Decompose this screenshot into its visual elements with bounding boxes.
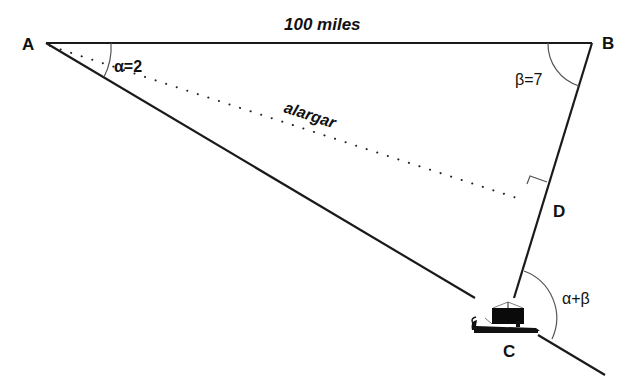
alpha-plus-beta-label: α+β [562, 290, 590, 307]
ship-icon [472, 302, 540, 333]
line-c-extension [538, 335, 605, 375]
line-ac [46, 43, 475, 298]
beta-arc [548, 43, 579, 86]
vertex-b-label: B [602, 34, 614, 53]
triangle-diagram: A B C D 100 miles α=2 β=7 α+β alargar [0, 0, 635, 385]
vertex-c-label: C [503, 342, 515, 361]
vertex-a-label: A [22, 35, 34, 54]
dotted-line-label: alargar [282, 99, 339, 132]
alpha-label: α=2 [114, 58, 142, 75]
vertex-d-label: D [553, 202, 565, 221]
right-angle-mark [527, 176, 547, 184]
alpha-arc [104, 43, 111, 77]
distance-ab-label: 100 miles [284, 15, 361, 34]
beta-label: β=7 [515, 71, 543, 88]
